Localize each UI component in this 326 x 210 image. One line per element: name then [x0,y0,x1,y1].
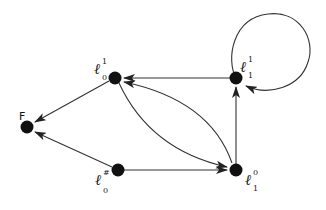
graph-diagram: ℓ 1 0 ℓ 1 1 F ℓ # 0 ℓ 0 1 [0,0,326,210]
svg-text:ℓ: ℓ [95,171,101,189]
edge-l01-to-F [35,81,109,122]
edge-l10-to-l01-curve [124,82,232,163]
label-l0h: ℓ # 0 [95,168,110,195]
svg-text:ℓ: ℓ [245,171,251,189]
edge-l01-to-l10-curve [119,83,227,167]
svg-text:0: 0 [103,186,108,195]
svg-text:#: # [103,168,110,177]
label-l01: ℓ 1 0 [94,57,107,82]
svg-text:1: 1 [248,71,253,80]
svg-text:1: 1 [102,57,107,66]
svg-text:0: 0 [253,168,258,177]
node-l01 [109,72,122,85]
svg-text:0: 0 [102,73,107,82]
label-l10: ℓ 0 1 [245,168,258,193]
node-l10 [230,164,243,177]
svg-text:ℓ: ℓ [94,60,100,78]
label-F: F [19,110,25,123]
edge-l11-self-loop [232,14,310,91]
svg-text:F: F [19,110,25,123]
svg-text:ℓ: ℓ [240,58,246,76]
svg-text:1: 1 [253,184,258,193]
svg-text:1: 1 [248,55,253,64]
node-l0h [112,164,125,177]
edge-l0h-to-F [35,132,112,167]
